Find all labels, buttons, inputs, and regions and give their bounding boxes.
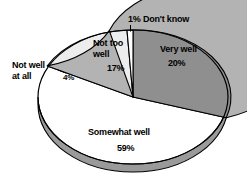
slice-value-somewhat-well: 59%: [117, 143, 134, 154]
slice-value-not-too-well: 17%: [107, 63, 124, 74]
slice-label-very-well: Very well: [160, 44, 197, 55]
slice-label-not-too-well: Not toowell: [93, 38, 123, 59]
slice-label-not-well-at-all: Not wellat all: [12, 60, 45, 81]
pie-chart: 1% Don't know Very well 20% Not toowell …: [0, 0, 247, 193]
slice-label-not-too-well-line2: well: [93, 49, 109, 59]
slice-label-dont-know: 1% Don't know: [128, 14, 189, 25]
slice-label-somewhat-well: Somewhat well: [88, 127, 150, 138]
slice-label-not-well-at-all-line1: Not well: [12, 60, 45, 70]
slice-value-very-well: 20%: [168, 58, 185, 69]
pie-chart-graphic: [0, 0, 247, 193]
slice-label-not-too-well-line1: Not too: [93, 38, 123, 48]
slice-value-not-well-at-all: 4%: [63, 73, 74, 82]
slice-label-not-well-at-all-line2: at all: [12, 71, 31, 81]
